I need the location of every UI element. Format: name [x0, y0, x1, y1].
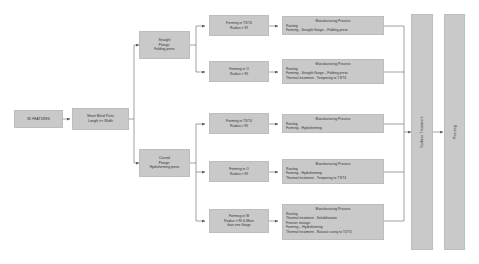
node-line-2: Radius < Rf — [212, 172, 266, 177]
wire-proc4-merge — [384, 132, 404, 172]
process-title: Manufacturing Process — [286, 207, 380, 212]
node-straight-flange[interactable]: Straight Flange: Folding press — [139, 31, 190, 59]
process-title: Manufacturing Process — [286, 62, 380, 67]
process-line-2: Forming - Hydroforming — [286, 126, 380, 130]
process-line-3: Thermal treatment - Tempering to T3/T4 — [286, 76, 380, 81]
node-line-2: Radius > Rf — [212, 124, 266, 129]
node-line-2: Length >> Width — [75, 119, 126, 124]
node-process-2[interactable]: Manufacturing Process Routing Forming - … — [282, 59, 384, 84]
node-process-1[interactable]: Manufacturing Process Routing Forming - … — [282, 16, 384, 35]
node-condition-3[interactable]: Forming in T3/T4 Radius > Rf — [209, 113, 269, 134]
node-sheet-metal-parts[interactable]: Sheet Metal Parts Length >> Width — [72, 108, 129, 130]
process-title: Manufacturing Process — [286, 117, 380, 122]
wire-proc1-merge — [384, 26, 404, 132]
flowchart-canvas: 3D FEATURES Sheet Metal Parts Length >> … — [0, 0, 479, 264]
node-process-3[interactable]: Manufacturing Process Routing Forming - … — [282, 114, 384, 133]
node-line-3: Hydroforming press — [142, 165, 187, 170]
node-line-3: Folding press — [142, 47, 187, 52]
process-line-5: Thermal treatment - Natural curing to T3… — [286, 230, 380, 235]
node-curved-flange[interactable]: Curved Flange: Hydroforming press — [139, 149, 190, 177]
stage-painting[interactable]: Painting — [444, 14, 465, 250]
node-condition-5[interactable]: Forming in W Radius < Rf & More than one… — [209, 209, 269, 233]
node-label: 3D FEATURES — [17, 117, 60, 122]
node-line-2: Radius > Rf — [212, 26, 266, 31]
node-process-5[interactable]: Manufacturing Process Routing Thermal tr… — [282, 204, 384, 240]
node-condition-2[interactable]: Forming in O Radius < Rf — [209, 61, 269, 82]
node-process-4[interactable]: Manufacturing Process Routing Forming - … — [282, 159, 384, 184]
node-condition-4[interactable]: Forming in O Radius < Rf — [209, 161, 269, 182]
node-3d-features[interactable]: 3D FEATURES — [14, 110, 63, 128]
node-condition-1[interactable]: Forming in T3/T4 Radius > Rf — [209, 15, 269, 36]
process-line-3: Thermal treatment - Tempering to T3/T4 — [286, 176, 380, 181]
node-line-3: than one flange — [212, 223, 266, 228]
stage-surface-treatment[interactable]: Surface Treatment — [411, 14, 433, 250]
stage-label: Surface Treatment — [420, 116, 424, 147]
stage-label: Painting — [453, 125, 457, 139]
node-line-2: Radius < Rf — [212, 72, 266, 77]
process-line-2: Forming - Straight flange – Folding pres… — [286, 28, 380, 32]
process-title: Manufacturing Process — [286, 19, 380, 24]
process-title: Manufacturing Process — [286, 162, 380, 167]
wire-proc5-merge — [384, 172, 404, 221]
